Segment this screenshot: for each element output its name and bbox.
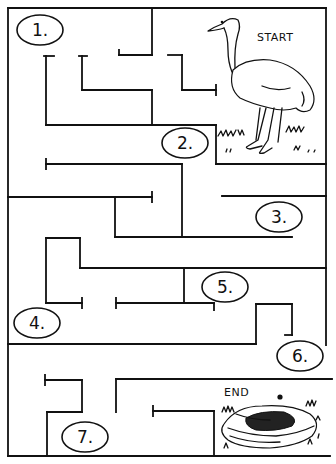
start-area-walls bbox=[216, 125, 326, 164]
checkpoint-3: 3. bbox=[256, 202, 302, 232]
maze-canvas: 1. 2. 3. 4. 5. 6. 7. START bbox=[0, 0, 336, 464]
checkpoint-3-label: 3. bbox=[271, 207, 287, 227]
nest-icon bbox=[222, 400, 320, 448]
checkpoint-1-label: 1. bbox=[32, 20, 48, 40]
checkpoint-4: 4. bbox=[14, 308, 60, 338]
checkpoint-2-label: 2. bbox=[177, 133, 193, 153]
checkpoint-7: 7. bbox=[62, 422, 108, 452]
egg-dot-icon bbox=[277, 394, 282, 399]
checkpoint-4-label: 4. bbox=[29, 313, 45, 333]
checkpoint-2: 2. bbox=[162, 128, 208, 158]
checkpoint-1: 1. bbox=[17, 15, 63, 45]
checkpoint-5-label: 5. bbox=[217, 277, 233, 297]
checkpoint-6-label: 6. bbox=[292, 346, 308, 366]
checkpoint-7-label: 7. bbox=[77, 427, 93, 447]
checkpoint-6: 6. bbox=[277, 341, 323, 371]
start-label: START bbox=[257, 31, 293, 44]
end-label: END bbox=[224, 386, 249, 399]
maze-puzzle: 1. 2. 3. 4. 5. 6. 7. START bbox=[0, 0, 336, 464]
maze-walls-section-1 bbox=[44, 8, 216, 125]
checkpoint-5: 5. bbox=[202, 272, 248, 302]
